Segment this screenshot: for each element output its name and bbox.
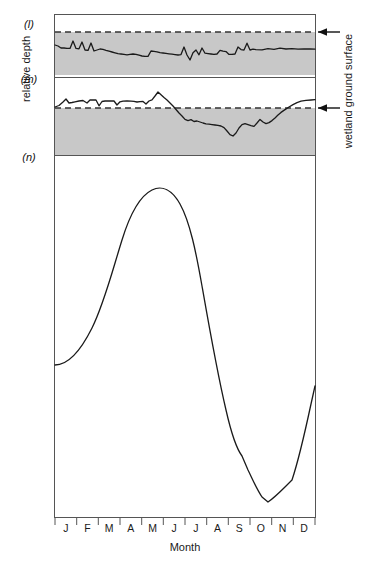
month-tick-label-s-8: S	[236, 522, 243, 534]
month-tick-label-j-0: J	[63, 522, 68, 534]
panel-m-ground-surface-arrow	[318, 104, 340, 112]
month-tick-label-m-2: M	[105, 522, 114, 534]
panel-m-saturated-zone-shading	[55, 108, 315, 155]
month-tick-label-a-3: A	[127, 522, 134, 534]
panel-l-ground-surface-arrow	[318, 28, 340, 36]
month-tick-label-a-7: A	[214, 522, 221, 534]
month-tick-label-m-4: M	[148, 522, 157, 534]
panel-l-saturated-zone-shading	[55, 32, 315, 75]
month-tick-label-d-11: D	[300, 522, 308, 534]
wetland-hydrograph-figure: (l) (m) (n) relative depth wetland groun…	[0, 0, 382, 563]
x-axis-ticks	[55, 518, 315, 525]
panel-l-group	[55, 15, 341, 78]
panel-m-group	[55, 78, 341, 156]
panel-n-frame	[55, 156, 316, 518]
month-tick-label-j-6: J	[193, 522, 198, 534]
panel-n-group: JFMAMJJASOND	[55, 156, 316, 535]
month-tick-label-f-1: F	[84, 522, 90, 534]
figure-plot-area: JFMAMJJASOND	[0, 0, 382, 563]
month-tick-label-j-5: J	[172, 522, 177, 534]
month-tick-label-o-9: O	[257, 522, 265, 534]
month-tick-label-n-10: N	[279, 522, 287, 534]
